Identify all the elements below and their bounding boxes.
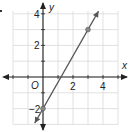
- origin-label: O: [31, 80, 39, 91]
- y-tick-label: 4: [34, 9, 40, 20]
- x-tick-label: 4: [100, 81, 106, 92]
- x-axis-label: x: [121, 60, 128, 71]
- x-tick-label: 2: [70, 81, 76, 92]
- y-arrow-down-icon: [40, 124, 46, 131]
- y-arrow-up-icon: [40, 2, 46, 9]
- y-tick-label: −2: [29, 104, 41, 115]
- point-marker: [86, 27, 91, 32]
- axis-labels: x y O: [31, 2, 128, 91]
- axes: [2, 2, 128, 131]
- point-marker: [41, 106, 46, 111]
- y-tick-label: 2: [34, 40, 40, 51]
- y-axis-label: y: [48, 2, 55, 13]
- x-arrow-right-icon: [121, 74, 128, 80]
- axis-ticks: 2442−2: [13, 9, 118, 125]
- coordinate-graph: 2442−2 x y O: [0, 0, 129, 132]
- corner-mark: [0, 10, 2, 12]
- x-arrow-left-icon: [2, 74, 9, 80]
